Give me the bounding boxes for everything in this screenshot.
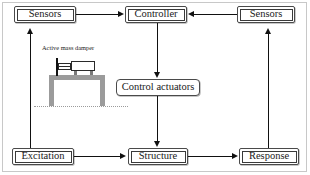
arrowhead-controller-to-actuators	[154, 72, 160, 78]
edge-controller-to-actuators	[157, 23, 158, 73]
edge-sensors-left-to-controller	[76, 14, 119, 15]
damper-rod-icon	[58, 66, 71, 67]
node-control-actuators-label: Control actuators	[122, 82, 195, 93]
arrowhead-response-to-sensors-right	[265, 28, 271, 34]
damper-mass-block-icon	[71, 61, 95, 71]
arrowhead-sensors-left-to-controller	[118, 11, 124, 17]
ground-line-icon	[34, 106, 128, 107]
node-sensors-left[interactable]: Sensors	[14, 6, 76, 23]
arrowhead-sensors-right-to-controller	[188, 11, 194, 17]
node-controller[interactable]: Controller	[125, 6, 187, 23]
active-mass-damper-caption: Active mass damper	[42, 44, 94, 51]
damper-wheel-icon	[74, 71, 77, 75]
node-structure-label: Structure	[139, 151, 178, 162]
edge-excitation-to-structure	[74, 156, 121, 157]
edge-sensors-right-to-controller	[194, 14, 237, 15]
arrowhead-actuators-to-structure	[154, 141, 160, 147]
node-structure[interactable]: Structure	[128, 148, 188, 165]
node-sensors-right[interactable]: Sensors	[237, 6, 295, 23]
arrowhead-excitation-to-structure	[120, 153, 126, 159]
active-mass-damper-illustration: Active mass damper	[36, 44, 132, 110]
arrowhead-excitation-to-sensors-left	[27, 28, 33, 34]
arrowhead-structure-to-response	[232, 153, 238, 159]
damper-rod-icon	[58, 69, 71, 70]
node-sensors-right-label: Sensors	[250, 9, 283, 20]
diagram-canvas: Sensors Controller Sensors Control actua…	[0, 0, 310, 175]
damper-wheel-icon	[90, 71, 93, 75]
node-response-label: Response	[249, 151, 289, 162]
edge-structure-to-response	[188, 156, 233, 157]
node-response[interactable]: Response	[239, 148, 299, 165]
node-sensors-left-label: Sensors	[29, 9, 62, 20]
edge-actuators-to-structure	[157, 96, 158, 142]
node-excitation[interactable]: Excitation	[12, 148, 74, 165]
damper-rod-icon	[58, 63, 71, 64]
node-controller-label: Controller	[134, 9, 177, 20]
edge-response-to-sensors-right	[268, 34, 269, 148]
node-excitation-label: Excitation	[21, 151, 64, 162]
edge-excitation-to-sensors-left	[30, 34, 31, 148]
